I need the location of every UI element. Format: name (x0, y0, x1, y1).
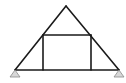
truss-diagram (0, 0, 126, 83)
left-support-icon (10, 70, 20, 77)
right-support-icon (114, 70, 124, 77)
right-rafter (66, 6, 119, 70)
left-rafter (15, 6, 66, 70)
